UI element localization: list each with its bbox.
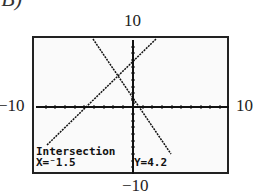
x-readout: X=⁻1.5 [36, 157, 76, 168]
xmax-label: 10 [236, 96, 253, 116]
ymax-label: 10 [124, 11, 141, 31]
xmin-label: −10 [0, 96, 25, 116]
y-readout: Y=4.2 [134, 157, 167, 168]
line-increasing [47, 39, 156, 145]
ymin-label: −10 [122, 176, 149, 192]
part-label: (B) [0, 0, 22, 12]
calculator-screen: Intersection X=⁻1.5 Y=4.2 [32, 36, 229, 174]
